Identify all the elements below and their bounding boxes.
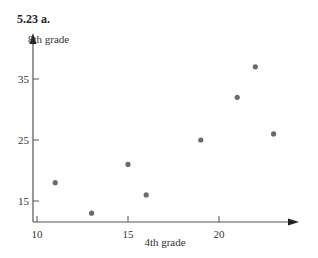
y-axis-label: 8th grade — [28, 33, 69, 45]
data-point — [53, 180, 58, 185]
x-axis-arrow-icon — [288, 219, 299, 226]
data-point — [89, 211, 94, 216]
x-tick-label: 20 — [214, 228, 226, 240]
scatter-plot: 1525351015208th grade4th grade — [0, 0, 318, 258]
x-tick-label: 10 — [32, 228, 44, 240]
data-points — [53, 64, 277, 216]
data-point — [253, 64, 258, 69]
data-point — [125, 162, 130, 167]
data-point — [235, 95, 240, 100]
y-tick-label: 25 — [18, 134, 30, 146]
data-point — [271, 131, 276, 136]
x-axis-label: 4th grade — [144, 236, 185, 248]
x-tick-label: 15 — [123, 228, 135, 240]
y-tick-label: 15 — [18, 195, 30, 207]
data-point — [198, 137, 203, 142]
y-tick-label: 35 — [18, 73, 30, 85]
data-point — [144, 192, 149, 197]
